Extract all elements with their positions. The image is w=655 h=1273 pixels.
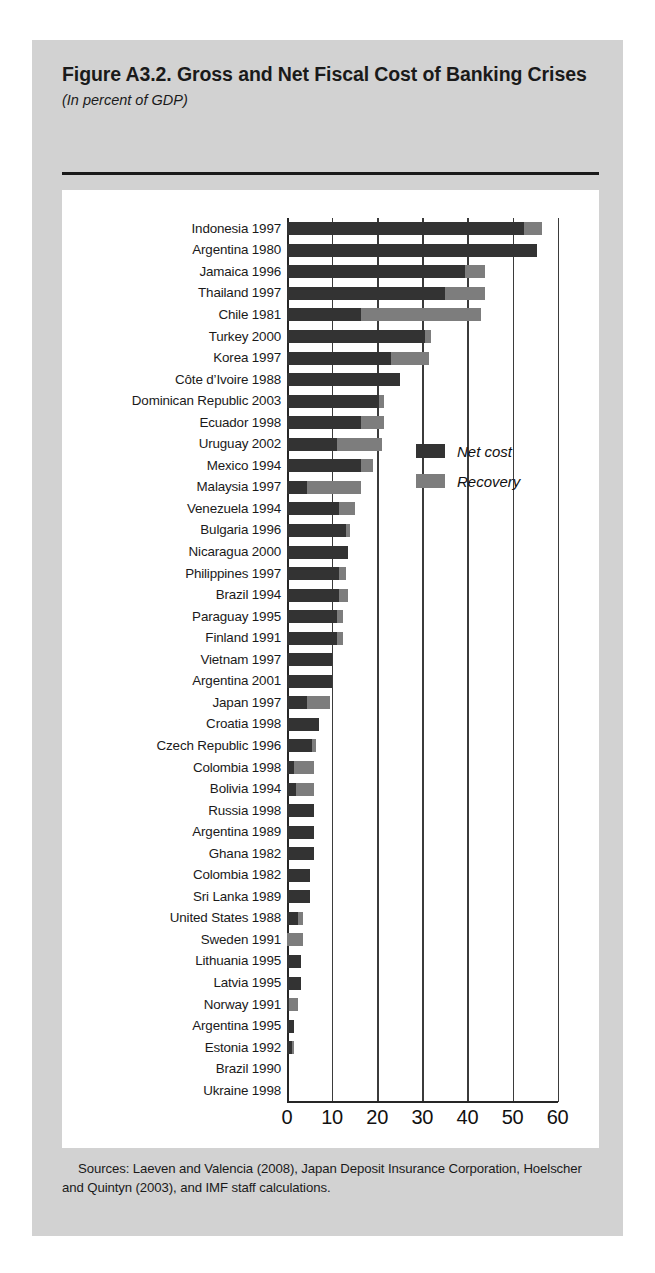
category-label: Sweden 1991: [201, 932, 281, 947]
category-label: Colombia 1982: [193, 867, 281, 882]
legend-label-recovery: Recovery: [457, 473, 520, 490]
chart-panel: 0102030405060 Indonesia 1997Argentina 19…: [62, 190, 599, 1148]
category-label: Croatia 1998: [206, 716, 281, 731]
category-label: Estonia 1992: [205, 1040, 281, 1055]
category-label: Malaysia 1997: [197, 479, 281, 494]
category-label: Côte d’Ivoire 1988: [175, 372, 281, 387]
category-label: Ecuador 1998: [199, 415, 281, 430]
category-label: Finland 1991: [205, 630, 281, 645]
category-label: Argentina 1995: [192, 1018, 281, 1033]
category-label: Thailand 1997: [198, 285, 281, 300]
category-label: Turkey 2000: [209, 329, 281, 344]
source-note: Sources: Laeven and Valencia (2008), Jap…: [62, 1160, 590, 1197]
category-label: Ukraine 1998: [203, 1083, 281, 1098]
category-label: Chile 1981: [218, 307, 281, 322]
legend-item-recovery: Recovery: [416, 470, 520, 492]
figure-header: Figure A3.2. Gross and Net Fiscal Cost o…: [62, 62, 602, 109]
legend-item-net-cost: Net cost: [416, 440, 520, 462]
category-label: Nicaragua 2000: [189, 544, 281, 559]
category-label: Venezuela 1994: [187, 501, 281, 516]
category-label: Vietnam 1997: [200, 652, 281, 667]
category-label: Bolivia 1994: [210, 781, 281, 796]
figure-title: Figure A3.2. Gross and Net Fiscal Cost o…: [62, 62, 602, 87]
category-label: Argentina 2001: [192, 673, 281, 688]
category-label: Paraguay 1995: [192, 609, 281, 624]
category-label: Korea 1997: [213, 350, 281, 365]
legend-label-net-cost: Net cost: [457, 443, 512, 460]
category-label: Dominican Republic 2003: [132, 393, 281, 408]
category-label: United States 1988: [170, 910, 281, 925]
category-label: Philippines 1997: [185, 566, 281, 581]
category-label: Argentina 1989: [192, 824, 281, 839]
category-label: Argentina 1980: [192, 242, 281, 257]
figure-page: Figure A3.2. Gross and Net Fiscal Cost o…: [0, 0, 655, 1273]
category-label: Brazil 1994: [216, 587, 281, 602]
category-label: Indonesia 1997: [192, 221, 281, 236]
source-note-text: Sources: Laeven and Valencia (2008), Jap…: [62, 1161, 582, 1195]
category-label: Latvia 1995: [213, 975, 281, 990]
category-label: Sri Lanka 1989: [193, 889, 281, 904]
legend-swatch-recovery-icon: [416, 474, 445, 488]
category-label: Uruguay 2002: [199, 436, 281, 451]
chart-legend: Net cost Recovery: [416, 440, 520, 500]
bar-chart: 0102030405060 Indonesia 1997Argentina 19…: [62, 190, 599, 1148]
category-label: Lithuania 1995: [195, 953, 281, 968]
category-label: Russia 1998: [208, 803, 281, 818]
category-label: Czech Republic 1996: [157, 738, 281, 753]
category-label: Ghana 1982: [209, 846, 281, 861]
figure-subtitle: (In percent of GDP): [62, 91, 602, 109]
category-label: Colombia 1998: [193, 760, 281, 775]
category-label: Mexico 1994: [207, 458, 281, 473]
category-label: Japan 1997: [213, 695, 282, 710]
x-axis-line: [287, 1101, 558, 1103]
category-label: Jamaica 1996: [199, 264, 281, 279]
category-label: Brazil 1990: [216, 1061, 281, 1076]
category-label: Norway 1991: [204, 997, 281, 1012]
category-labels: Indonesia 1997Argentina 1980Jamaica 1996…: [62, 190, 599, 1148]
header-rule: [62, 172, 599, 175]
category-label: Bulgaria 1996: [200, 522, 281, 537]
legend-swatch-net-cost-icon: [416, 444, 445, 458]
